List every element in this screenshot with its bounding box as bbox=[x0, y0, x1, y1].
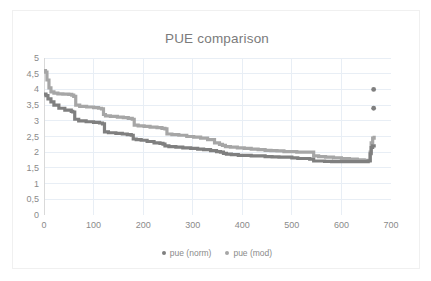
y-tick-label: 2,5 bbox=[26, 132, 39, 142]
x-tick-label: 300 bbox=[185, 220, 200, 230]
x-tick-label: 100 bbox=[86, 220, 101, 230]
legend-label: pue (norm) bbox=[170, 248, 212, 258]
x-tick-label: 500 bbox=[284, 220, 299, 230]
x-tick-label: 600 bbox=[334, 220, 349, 230]
chart-title: PUE comparison bbox=[13, 31, 421, 46]
y-tick-label: 3,5 bbox=[26, 100, 39, 110]
chart-frame: PUE comparison 00,511,522,533,544,55 010… bbox=[12, 10, 420, 269]
legend-item[interactable]: pue (norm) bbox=[162, 248, 212, 258]
x-tick-label: 400 bbox=[235, 220, 250, 230]
legend-marker-dot-icon bbox=[225, 251, 229, 255]
y-tick-label: 3 bbox=[34, 116, 39, 126]
y-tick-label: 1 bbox=[34, 179, 39, 189]
legend-label: pue (mod) bbox=[233, 248, 272, 258]
y-tick-label: 4 bbox=[34, 84, 39, 94]
isolated-point-lower bbox=[371, 106, 376, 111]
y-tick-label: 1,5 bbox=[26, 163, 39, 173]
y-tick-label: 5 bbox=[34, 53, 39, 63]
annotation-points bbox=[371, 87, 376, 111]
legend-marker-dot-icon bbox=[162, 251, 166, 255]
y-tick-label: 0 bbox=[34, 210, 39, 220]
y-tick-label: 4,5 bbox=[26, 69, 39, 79]
y-tick-label: 0,5 bbox=[26, 194, 39, 204]
x-tick-label: 0 bbox=[41, 220, 46, 230]
x-tick-label: 700 bbox=[383, 220, 398, 230]
gridlines bbox=[44, 58, 391, 215]
y-tick-label: 2 bbox=[34, 147, 39, 157]
isolated-point-upper bbox=[371, 87, 376, 92]
chart-legend: pue (norm)pue (mod) bbox=[13, 248, 421, 258]
x-tick-label: 200 bbox=[136, 220, 151, 230]
plot-svg bbox=[44, 58, 391, 215]
plot-area: 00,511,522,533,544,55 010020030040050060… bbox=[44, 58, 391, 215]
legend-item[interactable]: pue (mod) bbox=[225, 248, 272, 258]
